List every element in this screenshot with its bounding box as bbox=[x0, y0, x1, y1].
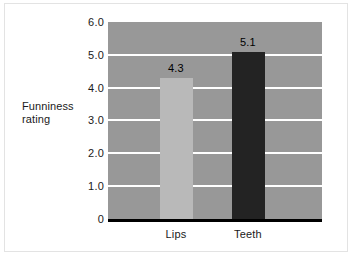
bar-lips[interactable] bbox=[160, 78, 193, 219]
gridline-2 bbox=[108, 152, 322, 154]
x-label-teeth: Teeth bbox=[218, 228, 278, 240]
gridline-5 bbox=[108, 54, 322, 56]
bar-teeth[interactable] bbox=[232, 52, 265, 220]
y-tick-label-5: 5.0 bbox=[64, 49, 104, 61]
y-axis-ticks: 6.0 5.0 4.0 3.0 2.0 1.0 0 bbox=[60, 0, 104, 260]
y-tick-label-2: 2.0 bbox=[64, 147, 104, 159]
gridline-1 bbox=[108, 185, 322, 187]
gridline-4 bbox=[108, 87, 322, 89]
value-label-lips: 4.3 bbox=[146, 62, 206, 74]
plot-area bbox=[108, 22, 322, 219]
y-tick-label-1: 1.0 bbox=[64, 180, 104, 192]
y-tick-label-6: 6.0 bbox=[64, 16, 104, 28]
chart-figure: 4.3 5.1 6.0 5.0 4.0 3.0 2.0 1.0 0 Funnin… bbox=[0, 0, 352, 260]
y-axis-title-line-1: Funniness bbox=[22, 100, 106, 113]
y-tick-label-0: 0 bbox=[64, 213, 104, 225]
y-axis-title: Funniness rating bbox=[22, 100, 106, 126]
value-label-teeth: 5.1 bbox=[218, 36, 278, 48]
x-label-lips: Lips bbox=[146, 228, 206, 240]
y-axis-title-line-2: rating bbox=[22, 113, 106, 126]
gridline-3 bbox=[108, 119, 322, 121]
y-tick-label-4: 4.0 bbox=[64, 82, 104, 94]
x-axis-line bbox=[108, 219, 322, 222]
